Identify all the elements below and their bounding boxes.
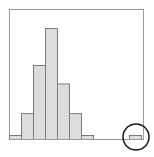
histogram-plot <box>0 0 154 157</box>
histogram-bar <box>10 136 22 140</box>
histogram-bar <box>46 29 58 140</box>
histogram-bar <box>58 84 70 140</box>
histogram-chart <box>0 0 154 157</box>
histogram-bar <box>82 136 94 140</box>
histogram-bar <box>22 114 34 140</box>
histogram-bar <box>130 136 142 140</box>
histogram-bar <box>34 66 46 140</box>
histogram-bar <box>70 114 82 140</box>
